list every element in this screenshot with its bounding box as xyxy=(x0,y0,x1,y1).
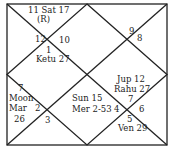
chart-lines xyxy=(0,0,174,150)
sign-7-left: 7 xyxy=(18,83,23,93)
label-moon: Moon xyxy=(9,93,33,103)
label-sun: Sun 15 xyxy=(72,93,102,103)
label-retro: (R) xyxy=(37,14,50,24)
sign-9: 9 xyxy=(129,26,134,36)
label-mer: Mer 2-53 xyxy=(72,104,112,114)
label-mar: Mar xyxy=(9,103,27,113)
sign-4: 4 xyxy=(114,104,119,114)
sign-12: 12 xyxy=(35,34,46,44)
label-ketu: Ketu 27 xyxy=(36,54,70,64)
label-mar-26: 26 xyxy=(14,114,25,124)
label-jup: Jup 12 xyxy=(117,74,145,84)
sign-3: 3 xyxy=(45,115,50,125)
sign-7-right: 7 xyxy=(128,94,133,104)
label-rahu: Rahu 27 xyxy=(114,84,150,94)
sign-6: 6 xyxy=(139,104,144,114)
label-ven: Ven 29 xyxy=(118,123,147,133)
sign-8: 8 xyxy=(137,33,142,43)
sign-2: 2 xyxy=(35,103,40,113)
sign-10: 10 xyxy=(59,35,70,45)
